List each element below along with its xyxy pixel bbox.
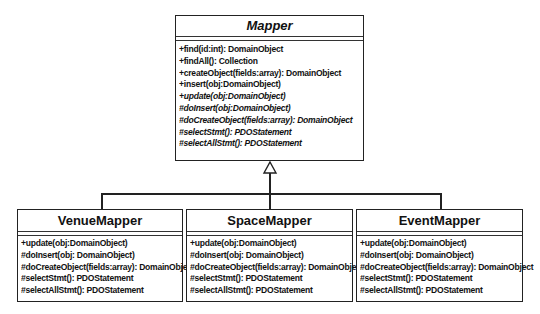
operations-compartment: +find(id:int): DomainObject +findAll(): …	[176, 41, 363, 152]
operations-compartment: +update(obj:DomainObject) #doInsert(obj:…	[18, 236, 182, 299]
inheritance-trunk-line	[269, 173, 271, 210]
operation: #selectStmt(): PDOStatement	[21, 273, 168, 285]
operation: +update(obj:DomainObject)	[190, 238, 338, 250]
inheritance-branch-event	[440, 193, 442, 210]
operation: +update(obj:DomainObject)	[21, 238, 168, 250]
operation: #doInsert(obj: DomainObject)	[21, 250, 168, 262]
abstract-operation: #selectAllStmt(): PDOStatement	[179, 138, 347, 150]
operation: +update(obj:DomainObject)	[360, 238, 508, 250]
operations-compartment: +update(obj:DomainObject) #doInsert(obj:…	[187, 236, 352, 299]
operation: #doInsert(obj: DomainObject)	[360, 250, 508, 262]
operation: #selectAllStmt(): PDOStatement	[360, 285, 508, 297]
operation: #selectStmt(): PDOStatement	[190, 273, 338, 285]
class-venue-mapper: VenueMapper +update(obj:DomainObject) #d…	[17, 209, 183, 302]
operation: +find(id:int): DomainObject	[179, 44, 347, 56]
inheritance-branch-venue	[101, 193, 103, 210]
operation: +createObject(fields:array): DomainObjec…	[179, 68, 347, 80]
operation: #doCreateObject(fields:array): DomainObj…	[21, 262, 168, 274]
operation: +findAll(): Collection	[179, 56, 347, 68]
operation: #selectAllStmt(): PDOStatement	[190, 285, 338, 297]
abstract-operation: +update(obj:DomainObject)	[179, 91, 347, 103]
abstract-operation: #selectStmt(): PDOStatement	[179, 127, 347, 139]
operation: #selectAllStmt(): PDOStatement	[21, 285, 168, 297]
operation: #selectStmt(): PDOStatement	[360, 273, 508, 285]
operation: #doInsert(obj: DomainObject)	[190, 250, 338, 262]
operation: #doCreateObject(fields:array): DomainObj…	[190, 262, 338, 274]
class-name-space-mapper: SpaceMapper	[187, 210, 352, 232]
class-space-mapper: SpaceMapper +update(obj:DomainObject) #d…	[186, 209, 353, 302]
class-name-event-mapper: EventMapper	[357, 210, 522, 232]
class-mapper: Mapper +find(id:int): DomainObject +find…	[175, 15, 364, 161]
operations-compartment: +update(obj:DomainObject) #doInsert(obj:…	[357, 236, 522, 299]
class-event-mapper: EventMapper +update(obj:DomainObject) #d…	[356, 209, 523, 302]
class-name-venue-mapper: VenueMapper	[18, 210, 182, 232]
abstract-operation: #doCreateObject(fields:array): DomainObj…	[179, 115, 347, 127]
operation: +insert(obj:DomainObject)	[179, 79, 347, 91]
class-name-mapper: Mapper	[176, 16, 363, 37]
abstract-operation: #doInsert(obj:DomainObject)	[179, 103, 347, 115]
operation: #doCreateObject(fields:array): DomainObj…	[360, 262, 508, 274]
inheritance-horizontal-line	[101, 193, 441, 195]
